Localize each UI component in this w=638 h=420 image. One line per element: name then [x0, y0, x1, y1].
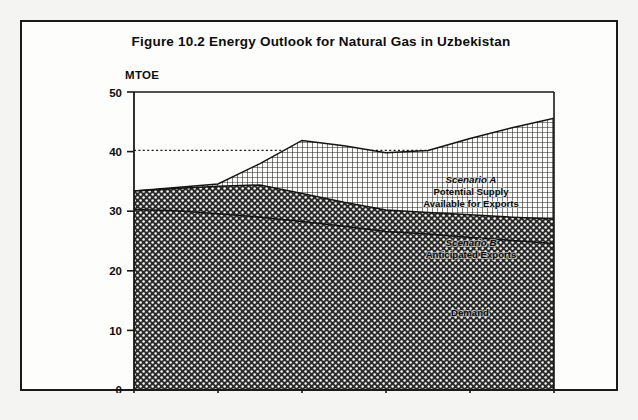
plot-area: 0 10 20 30 40 50 1990 — [22, 22, 620, 393]
y-tick-label-50: 50 — [109, 87, 122, 99]
y-tick-label-40: 40 — [109, 146, 122, 158]
y-axis-ticks — [127, 92, 134, 390]
annotation-demand-label: Demand — [451, 307, 489, 318]
annotation-demand: Demand Demand — [451, 307, 489, 318]
annotation-scenario-a-line-2: Potential Supply — [433, 186, 509, 197]
y-tick-label-20: 20 — [109, 265, 122, 277]
annotation-scenario-a-line-3: Available for Exports — [423, 198, 519, 209]
figure-frame: Figure 10.2 Energy Outlook for Natural G… — [20, 20, 618, 391]
annotation-scenario-b-line-1: Scenario B — [445, 237, 496, 248]
annotation-scenario-a-line-1: Scenario A — [446, 174, 497, 185]
y-tick-label-0: 0 — [116, 384, 122, 393]
y-tick-label-10: 10 — [109, 325, 122, 337]
annotation-scenario-b-line-2: Anticipated Exports — [426, 249, 517, 260]
y-tick-label-30: 30 — [109, 205, 122, 217]
stacked-area-chart: 0 10 20 30 40 50 1990 — [22, 22, 620, 393]
screenshot-root: Figure 10.2 Energy Outlook for Natural G… — [0, 0, 638, 420]
y-axis-tick-labels: 0 10 20 30 40 50 — [109, 87, 122, 393]
